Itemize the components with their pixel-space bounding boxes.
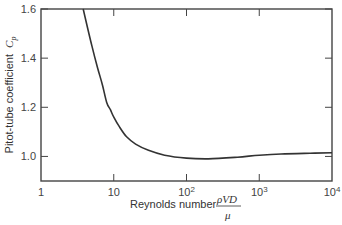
y-tick-label: 1.6 xyxy=(21,3,36,15)
cp-curve xyxy=(83,9,332,159)
plot-frame xyxy=(41,9,332,181)
x-tick-label: 10 xyxy=(108,186,120,198)
svg-text:Pitot-tube coefficient C: Pitot-tube coefficient Cp xyxy=(3,37,18,154)
x-tick-label: 103 xyxy=(251,185,268,198)
plot-border xyxy=(41,9,332,181)
x-axis-ticks: 110102103104 xyxy=(38,9,341,198)
x-tick-label: 104 xyxy=(324,185,341,198)
y-tick-label: 1.2 xyxy=(21,101,36,113)
x-tick-label: 102 xyxy=(178,185,195,198)
y-axis-label-subscript: p xyxy=(9,37,18,42)
x-axis-label-denominator: μ xyxy=(224,209,231,221)
y-tick-label: 1.4 xyxy=(21,52,36,64)
pitot-coefficient-chart: 1.01.21.41.6 110102103104 Reynolds numbe… xyxy=(0,0,342,225)
y-tick-label: 1.0 xyxy=(21,150,36,162)
x-axis-label: Reynolds number xyxy=(130,198,217,210)
x-tick-label: 1 xyxy=(38,186,44,198)
y-axis-label: Pitot-tube coefficient Cp xyxy=(3,37,18,154)
y-axis-ticks: 1.01.21.41.6 xyxy=(21,3,332,162)
x-axis-label-numerator: ρVD xyxy=(216,193,237,205)
y-axis-label-text: Pitot-tube coefficient xyxy=(3,54,15,153)
